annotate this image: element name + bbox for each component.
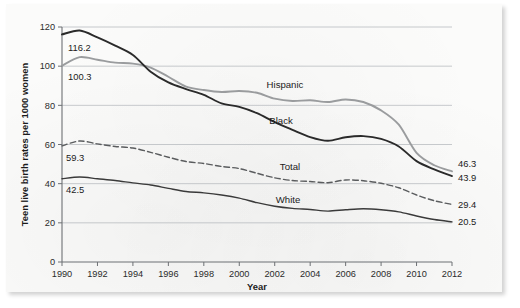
x-axis-tick-label: 1996 [158, 269, 178, 279]
line-chart: 0204060801001201990199219941996199820002… [0, 0, 520, 308]
y-axis-tick-label: 0 [50, 257, 55, 267]
y-axis-tick-label: 60 [45, 140, 55, 150]
x-axis-tick-label: 1998 [194, 269, 214, 279]
start-value-black: 116.2 [68, 42, 91, 53]
x-axis-tick-label: 1990 [52, 269, 72, 279]
series-label-white: White [276, 194, 301, 205]
figure-container: 0204060801001201990199219941996199820002… [0, 0, 520, 308]
x-axis-tick-label: 2002 [265, 269, 285, 279]
x-axis-tick-label: 2004 [300, 269, 320, 279]
series-label-black: Black [269, 115, 293, 126]
start-value-hispanic: 100.3 [68, 71, 91, 82]
x-axis-tick-label: 1994 [123, 269, 143, 279]
y-axis-tick-label: 120 [40, 22, 55, 32]
x-axis-tick-label: 2000 [229, 269, 249, 279]
x-axis-tick-label: 2006 [335, 269, 355, 279]
end-value-total: 29.4 [458, 199, 476, 210]
x-axis-title: Year [247, 281, 267, 292]
x-axis-tick-label: 2012 [442, 269, 462, 279]
end-value-white: 20.5 [458, 216, 476, 227]
series-line-total [62, 141, 452, 204]
y-axis-title: Teen live birth rates per 1000 women [19, 63, 30, 227]
x-axis-tick-label: 1992 [87, 269, 107, 279]
series-label-hispanic: Hispanic [267, 79, 304, 90]
end-value-hispanic: 46.3 [458, 158, 476, 169]
y-axis-tick-label: 20 [45, 218, 55, 228]
y-axis-tick-label: 80 [45, 101, 55, 111]
series-label-total: Total [280, 161, 300, 172]
end-value-black: 43.9 [458, 172, 476, 183]
y-axis-tick-label: 100 [40, 61, 55, 71]
start-value-white: 42.5 [66, 184, 84, 195]
start-value-total: 59.3 [66, 152, 84, 163]
y-axis-tick-label: 40 [45, 179, 55, 189]
series-line-black [62, 30, 452, 176]
x-axis-tick-label: 2010 [406, 269, 426, 279]
x-axis-tick-label: 2008 [371, 269, 391, 279]
